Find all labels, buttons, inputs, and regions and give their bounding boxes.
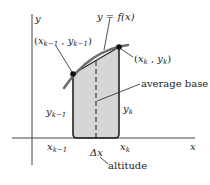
right-height-label: yk <box>122 103 133 116</box>
right-point-label: (xk , yk) <box>134 53 171 66</box>
leader-curve-label <box>104 18 110 50</box>
left-point-label: (xk−1 , yk−1) <box>34 35 92 48</box>
left-tick-label: xk−1 <box>47 141 67 154</box>
leader-right-point <box>121 49 133 57</box>
average-base-label: average base <box>141 78 208 89</box>
point-right <box>116 44 122 50</box>
leader-left-point <box>56 46 72 72</box>
trapezoid-diagram: y x y = f(x) (xk−1 , yk−1) (xk , yk) ave… <box>0 0 210 185</box>
delta-x-label: Δx <box>89 147 103 158</box>
x-axis-label: x <box>190 141 196 152</box>
altitude-label: altitude <box>108 160 147 171</box>
y-axis-label: y <box>34 13 41 24</box>
curve-label: y = f(x) <box>96 11 135 22</box>
point-left <box>70 71 76 77</box>
left-height-label: yk−1 <box>45 106 66 119</box>
right-tick-label: xk <box>120 141 130 154</box>
leader-altitude <box>100 157 108 164</box>
